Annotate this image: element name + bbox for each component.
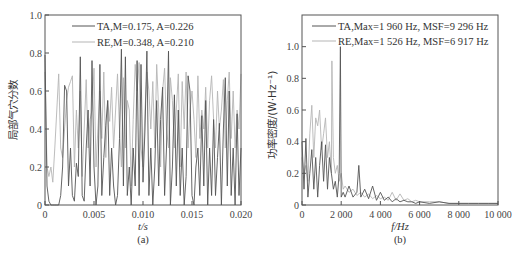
figure: 00.20.40.60.81.0 00.0050.0100.0150.020 T… <box>0 0 529 255</box>
y-axis-ticks-b: 00.20.40.60.81.0 <box>287 41 307 210</box>
x-tick-label: 0.015 <box>181 209 204 220</box>
y-tick-label: 0.4 <box>30 124 43 135</box>
y-tick-label: 1.0 <box>30 10 43 21</box>
x-axis-label-b: f/Hz <box>391 221 409 232</box>
x-tick-label: 0.010 <box>132 209 155 220</box>
x-tick-label: 0 <box>300 209 305 220</box>
caption-a: (a) <box>137 234 149 246</box>
x-axis-ticks-a: 00.0050.0100.0150.020 <box>43 201 253 220</box>
y-axis-label-b: 功率密度/(W·Hz⁻¹) <box>266 71 278 160</box>
x-tick-label: 0 <box>43 209 48 220</box>
x-tick-label: 10 000 <box>484 209 512 220</box>
x-tick-label: 2 000 <box>330 209 353 220</box>
plot-area-a <box>45 49 241 205</box>
x-tick-label: 0.005 <box>83 209 106 220</box>
y-axis-label-a: 局部气穴分数 <box>7 79 19 140</box>
y-tick-label: 0.6 <box>287 105 300 116</box>
x-tick-label: 6 000 <box>408 209 431 220</box>
legend-label-ta-b: TA,Max=1 960 Hz, MSF=9 296 Hz <box>338 21 488 32</box>
y-tick-label: 0.4 <box>287 136 300 147</box>
caption-b: (b) <box>394 234 407 246</box>
y-tick-label: 0 <box>37 200 42 211</box>
x-axis-ticks-b: 02 0004 0006 0008 00010 000 <box>300 201 512 220</box>
legend-a: TA,M=0.175, A=0.226 RE,M=0.348, A=0.210 <box>72 21 194 48</box>
y-tick-label: 0.2 <box>287 168 300 179</box>
legend-label-ta-a: TA,M=0.175, A=0.226 <box>97 21 193 32</box>
y-tick-label: 1.0 <box>287 41 300 52</box>
plot-area-b <box>302 47 498 204</box>
x-tick-label: 4 000 <box>369 209 392 220</box>
series-line-ta <box>45 49 241 205</box>
legend-label-re-b: RE,Max=1 526 Hz, MSF=6 917 Hz <box>338 36 489 47</box>
x-tick-label: 8 000 <box>448 209 471 220</box>
y-tick-label: 0 <box>294 200 299 211</box>
y-tick-label: 0.8 <box>287 73 300 84</box>
y-tick-label: 0.2 <box>30 162 43 173</box>
x-axis-label-a: t/s <box>138 221 148 232</box>
series-line-re <box>302 61 498 204</box>
y-tick-label: 0.6 <box>30 86 43 97</box>
y-tick-label: 0.8 <box>30 48 43 59</box>
x-tick-label: 0.020 <box>230 209 253 220</box>
legend-b: TA,Max=1 960 Hz, MSF=9 296 Hz RE,Max=1 5… <box>312 21 489 47</box>
panel-a-time-series: 00.20.40.60.81.0 00.0050.0100.0150.020 T… <box>7 10 252 247</box>
legend-label-re-a: RE,M=0.348, A=0.210 <box>97 37 194 48</box>
panel-b-power-spectrum: 00.20.40.60.81.0 02 0004 0006 0008 00010… <box>266 15 512 246</box>
